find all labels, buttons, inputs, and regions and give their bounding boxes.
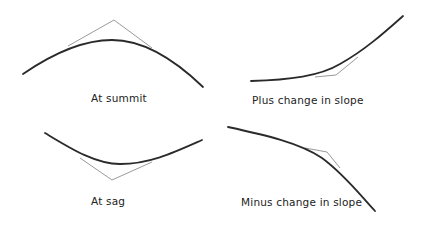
summit-curve (23, 40, 203, 87)
plus-tangent-lines (315, 57, 358, 77)
label-at-sag: At sag (91, 195, 125, 207)
label-minus-change-in-slope: Minus change in slope (241, 196, 362, 208)
plus-curve (251, 16, 403, 81)
panel-summit (23, 20, 203, 87)
panel-plus-change (251, 16, 403, 81)
label-at-summit: At summit (91, 92, 147, 104)
label-plus-change-in-slope: Plus change in slope (252, 94, 364, 106)
sag-curve (45, 133, 202, 164)
panel-sag (45, 133, 202, 180)
vertical-curves-diagram (0, 0, 422, 227)
